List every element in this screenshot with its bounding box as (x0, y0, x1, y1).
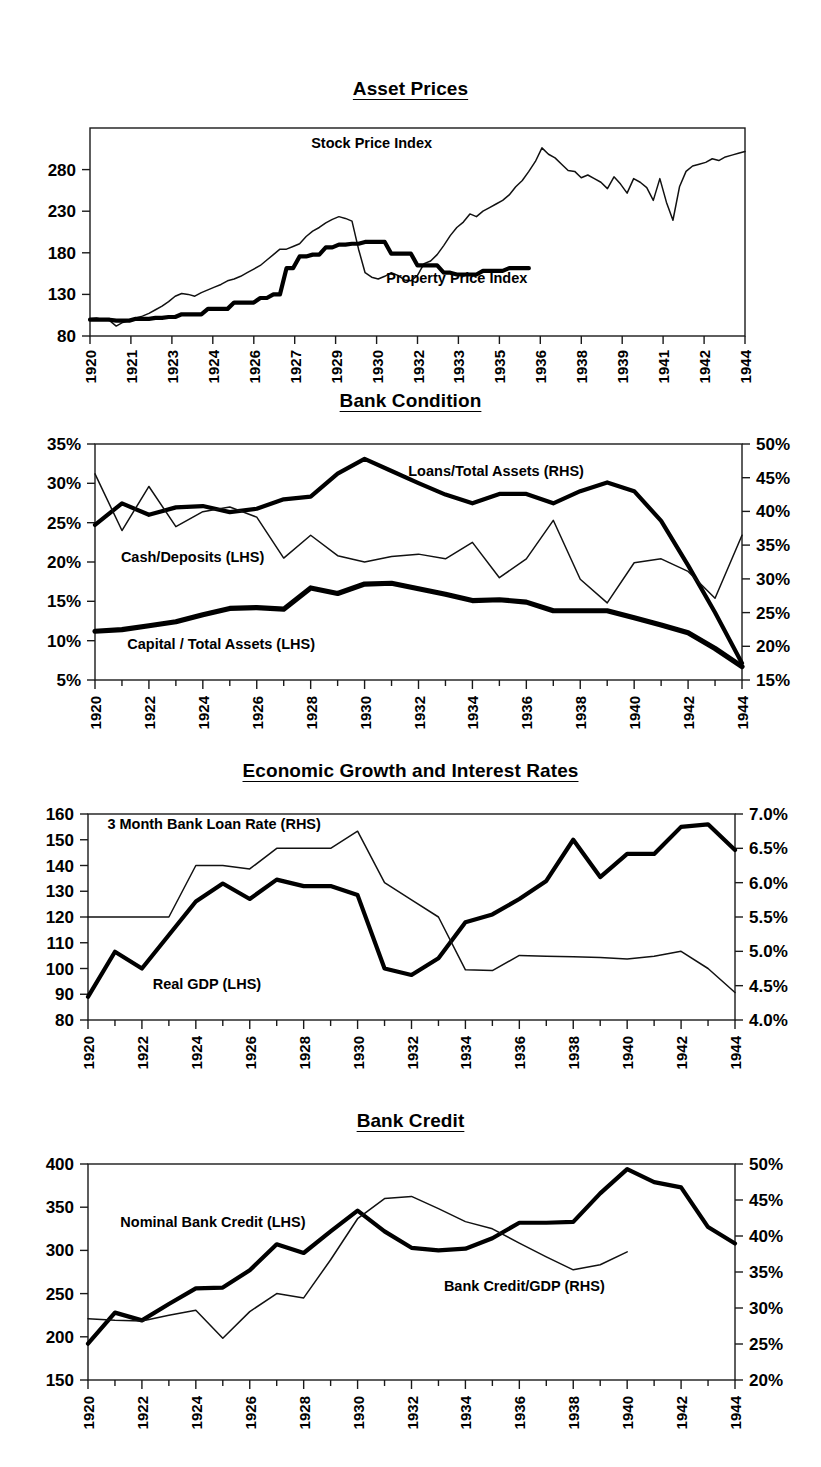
svg-text:5%: 5% (56, 671, 81, 690)
x-axis-tick-label: 1928 (296, 1396, 313, 1429)
y-axis-left-labels: 5% 10% 15% 20% 25% 30% 35% (47, 435, 81, 690)
svg-text:20%: 20% (47, 553, 81, 572)
series-line-real-gdp (88, 824, 735, 997)
x-axis-tick-label: 1934 (457, 1395, 474, 1429)
x-axis-tick-label: 1934 (457, 1035, 474, 1069)
x-axis-tick-label: 1944 (727, 1395, 744, 1429)
x-axis-tick-label: 1942 (680, 696, 697, 729)
svg-text:40%: 40% (756, 502, 790, 521)
y-axis-right-labels: 15% 20% 25% 30% 35% 40% 45% 50% (756, 435, 790, 690)
x-axis-tick-label: 1928 (296, 1036, 313, 1069)
svg-text:1929: 1929 (328, 350, 345, 383)
x-axis-tick-label: 1944 (727, 1035, 744, 1069)
axis-tick-label: 150 (46, 1371, 74, 1390)
chart-title-bank-condition: Bank Condition (0, 390, 821, 412)
x-axis-ticks (90, 336, 745, 344)
y-axis-left-ticks (87, 444, 95, 680)
svg-text:280: 280 (48, 161, 76, 180)
svg-text:15%: 15% (756, 671, 790, 690)
svg-text:1924: 1924 (205, 349, 222, 383)
axis-tick-label: 45% (749, 1191, 783, 1210)
x-axis-tick-label: 1920 (87, 696, 104, 729)
axis-tick-label: 25% (749, 1335, 783, 1354)
annotation-property-price-index: Property Price Index (386, 270, 527, 286)
axis-tick-label: 120 (46, 908, 74, 927)
series-line-cash-deposits (95, 474, 742, 603)
x-axis-labels: 1920 1921 1923 1924 1926 1927 1929 1930 … (82, 349, 754, 383)
svg-text:1936: 1936 (532, 350, 549, 383)
axis-tick-label: 400 (46, 1155, 74, 1174)
svg-text:25%: 25% (47, 514, 81, 533)
x-axis-tick-label: 1940 (626, 696, 643, 729)
series-line-capital-total-assets (95, 583, 742, 666)
svg-text:1927: 1927 (287, 350, 304, 383)
annotation-real-gdp: Real GDP (LHS) (153, 976, 262, 992)
axis-tick-label: 30% (749, 1299, 783, 1318)
axis-tick-label: 50% (749, 1155, 783, 1174)
x-axis-tick-label: 1936 (511, 1036, 528, 1069)
axis-tick-label: 5.0% (749, 942, 788, 961)
x-axis-tick-label: 1920 (80, 1036, 97, 1069)
x-axis-tick-label: 1940 (619, 1396, 636, 1429)
x-axis-tick-label: 1938 (565, 1036, 582, 1069)
x-axis-tick-label: 1924 (188, 1395, 205, 1429)
svg-text:45%: 45% (756, 469, 790, 488)
x-axis-tick-label: 1920 (80, 1396, 97, 1429)
svg-text:20%: 20% (756, 637, 790, 656)
y-axis-left-ticks (80, 1164, 88, 1380)
plot-economic-growth: 8090100110120130140150160 4.0%4.5%5.0%5.… (0, 782, 821, 1092)
y-axis-right-ticks (735, 1164, 743, 1380)
annotations-asset-prices: Stock Price Index Property Price Index (311, 135, 527, 286)
x-axis-tick-label: 1924 (188, 1035, 205, 1069)
svg-text:50%: 50% (756, 435, 790, 454)
x-axis-tick-label: 1930 (350, 1396, 367, 1429)
x-axis-ticks (88, 1380, 735, 1389)
svg-text:35%: 35% (47, 435, 81, 454)
axis-tick-label: 4.5% (749, 977, 788, 996)
y-axis-left-labels: 8090100110120130140150160 (46, 805, 74, 1030)
svg-text:25%: 25% (756, 604, 790, 623)
x-axis-tick-label: 1936 (511, 1396, 528, 1429)
y-axis-left-ticks (82, 170, 90, 336)
x-axis-tick-label: 1922 (134, 1036, 151, 1069)
svg-text:1938: 1938 (573, 350, 590, 383)
series-layer-asset-prices (90, 148, 745, 326)
svg-text:1923: 1923 (164, 350, 181, 383)
svg-text:30%: 30% (756, 570, 790, 589)
plot-asset-prices: 80 130 180 230 280 (0, 100, 821, 400)
svg-text:1941: 1941 (655, 350, 672, 383)
x-axis-tick-label: 1932 (404, 1036, 421, 1069)
axis-tick-label: 300 (46, 1241, 74, 1260)
y-axis-left-labels: 80 130 180 230 280 (48, 161, 76, 346)
axis-tick-label: 6.0% (749, 874, 788, 893)
axis-tick-label: 140 (46, 857, 74, 876)
annotation-cash-deposits: Cash/Deposits (LHS) (121, 549, 265, 565)
svg-text:1920: 1920 (82, 350, 99, 383)
svg-text:230: 230 (48, 202, 76, 221)
plot-frame (90, 128, 745, 336)
svg-text:130: 130 (48, 285, 76, 304)
x-axis-ticks (88, 1020, 735, 1029)
axis-tick-label: 6.5% (749, 839, 788, 858)
svg-text:1944: 1944 (737, 349, 754, 383)
plot-bank-credit: 150200250300350400 20%25%30%35%40%45%50%… (0, 1132, 821, 1452)
x-axis-tick-label: 1928 (303, 696, 320, 729)
x-axis-tick-label: 1924 (195, 695, 212, 729)
y-axis-left-labels: 150200250300350400 (46, 1155, 74, 1390)
svg-text:1942: 1942 (696, 350, 713, 383)
axis-tick-label: 5.5% (749, 908, 788, 927)
axis-tick-label: 20% (749, 1371, 783, 1390)
chart-panel-bank-credit: Bank Credit 150200250300350400 20%25%30%… (0, 1110, 821, 1452)
x-axis-tick-label: 1922 (134, 1396, 151, 1429)
x-axis-tick-label: 1938 (572, 696, 589, 729)
chart-panel-asset-prices: Asset Prices 80 130 180 230 2 (0, 78, 821, 400)
x-axis-tick-label: 1932 (411, 696, 428, 729)
svg-text:35%: 35% (756, 536, 790, 555)
svg-bank-condition: 5% 10% 15% 20% 25% 30% 35% (0, 412, 821, 742)
x-axis-tick-label: 1926 (242, 1396, 259, 1429)
x-axis-tick-label: 1930 (357, 696, 374, 729)
y-axis-right-ticks (742, 444, 750, 680)
annotation-nominal-bank-credit: Nominal Bank Credit (LHS) (120, 1214, 305, 1230)
axis-tick-label: 40% (749, 1227, 783, 1246)
chart-panel-economic-growth: Economic Growth and Interest Rates 80901… (0, 760, 821, 1092)
